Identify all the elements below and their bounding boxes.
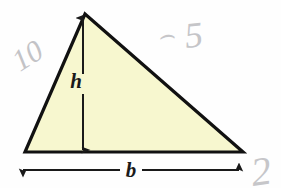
figure-root: 10 ⌢ 5 2 h b bbox=[0, 0, 281, 188]
pencil-mark-curve: ⌢ bbox=[156, 20, 176, 50]
height-label: h bbox=[70, 69, 82, 93]
triangle-diagram-svg: 10 ⌢ 5 2 h b bbox=[0, 0, 281, 188]
base-label: b bbox=[126, 158, 137, 182]
